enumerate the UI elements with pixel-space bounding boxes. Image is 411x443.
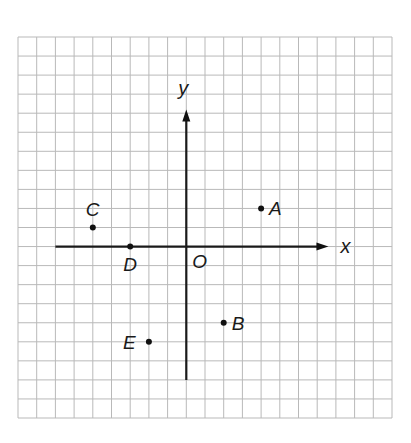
point-dot-icon bbox=[127, 244, 133, 250]
point-label: C bbox=[86, 199, 100, 220]
point-label: D bbox=[123, 254, 137, 275]
points: ABCDE bbox=[86, 198, 282, 352]
point-a: A bbox=[258, 198, 282, 219]
origin-label: O bbox=[192, 251, 207, 272]
grid bbox=[18, 37, 392, 418]
point-label: A bbox=[268, 198, 282, 219]
point-label: B bbox=[232, 313, 245, 334]
point-dot-icon bbox=[258, 205, 264, 211]
point-dot-icon bbox=[221, 320, 227, 326]
point-c: C bbox=[86, 199, 100, 231]
point-d: D bbox=[123, 244, 137, 275]
y-axis-arrow-icon bbox=[182, 109, 190, 121]
point-b: B bbox=[221, 313, 245, 334]
point-dot-icon bbox=[146, 339, 152, 345]
point-dot-icon bbox=[90, 225, 96, 231]
x-axis-label: x bbox=[339, 235, 351, 257]
x-axis-arrow-icon bbox=[316, 243, 328, 251]
y-axis-label: y bbox=[176, 77, 189, 99]
point-label: E bbox=[123, 332, 136, 353]
coordinate-plane: x y O ABCDE bbox=[0, 0, 411, 443]
axes: x y O bbox=[55, 77, 351, 380]
